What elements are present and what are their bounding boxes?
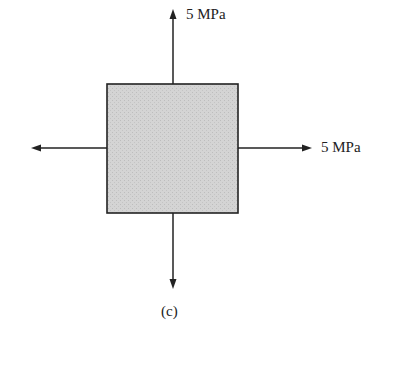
top-stress-label: 5 MPa xyxy=(186,6,226,23)
arrow-down-icon xyxy=(170,213,177,289)
stress-element-square xyxy=(107,84,238,213)
right-stress-label: 5 MPa xyxy=(321,139,361,156)
stress-element-diagram xyxy=(0,0,401,372)
arrow-left-icon xyxy=(31,145,107,152)
figure-caption: (c) xyxy=(161,303,178,320)
arrow-up-icon xyxy=(170,9,177,84)
arrow-right-icon xyxy=(238,145,312,152)
